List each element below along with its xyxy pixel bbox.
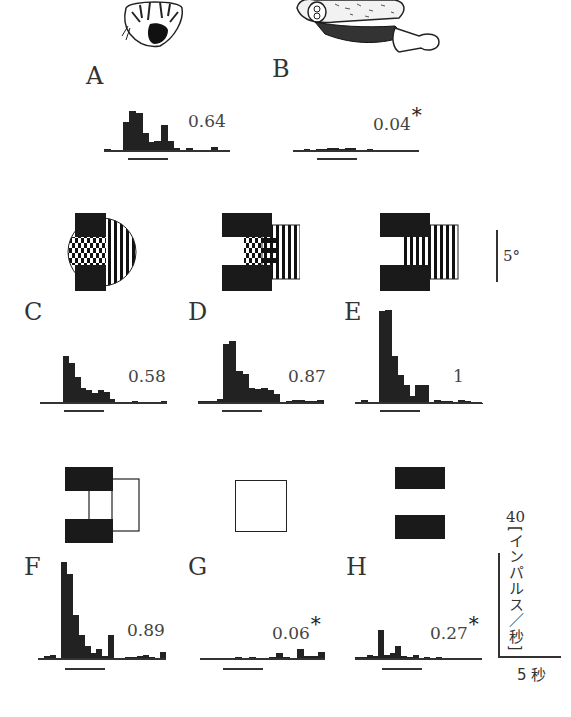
stimulus-duration-bar-a <box>128 158 168 160</box>
histogram-baseline <box>355 658 482 660</box>
stimulus-g-empty-square <box>235 480 287 532</box>
panel-label-a: A <box>86 64 103 88</box>
panel-label-b: B <box>272 57 290 81</box>
stimulus-duration-bar-c <box>64 410 104 412</box>
histogram-h <box>355 605 482 660</box>
histogram-e <box>355 306 482 404</box>
time-scale-bar <box>498 656 561 658</box>
stimulus-c-bars-grating-circle <box>66 213 138 291</box>
histogram-baseline <box>40 402 167 404</box>
histogram-baseline <box>198 402 323 404</box>
stimulus-duration-bar-e <box>380 410 420 412</box>
stimulus-a-face-illustration <box>120 0 190 50</box>
rate-scale-value: 40 <box>506 508 525 526</box>
stimulus-duration-bar-d <box>222 410 262 412</box>
histogram-b <box>293 100 419 152</box>
stimulus-duration-bar-g <box>223 668 263 670</box>
stimulus-h-two-bars <box>395 467 445 539</box>
rate-scale-bar <box>498 553 500 658</box>
stimulus-duration-bar-h <box>382 668 422 670</box>
stimulus-duration-bar-f <box>65 668 105 670</box>
histogram-bar <box>108 635 114 660</box>
histogram-baseline <box>38 658 166 660</box>
stimulus-duration-bar-b <box>317 158 357 160</box>
histogram-f <box>38 560 166 660</box>
histogram-g <box>200 610 325 660</box>
rate-scale-unit: [インパルス／秒] <box>505 526 526 656</box>
stimulus-e-bars-vertical-grating <box>380 213 460 291</box>
panel-label-c: C <box>24 300 42 324</box>
stimulus-f-bars-outline <box>64 467 142 543</box>
histogram-c <box>40 340 167 404</box>
histogram-a <box>104 100 230 152</box>
panel-label-h: H <box>346 555 367 579</box>
histogram-baseline <box>355 402 482 404</box>
panel-label-g: G <box>188 555 207 579</box>
angle-scale-label: 5° <box>503 247 520 265</box>
stimulus-d-bars-grating-rectangle <box>222 213 300 291</box>
angle-scale-bar <box>496 230 498 282</box>
histogram-baseline <box>104 150 230 152</box>
stimulus-b-object-illustration <box>295 0 445 62</box>
histogram-baseline <box>200 658 325 660</box>
histogram-baseline <box>293 150 419 152</box>
histogram-d <box>198 320 323 404</box>
time-scale-label: 5 秒 <box>517 663 546 684</box>
